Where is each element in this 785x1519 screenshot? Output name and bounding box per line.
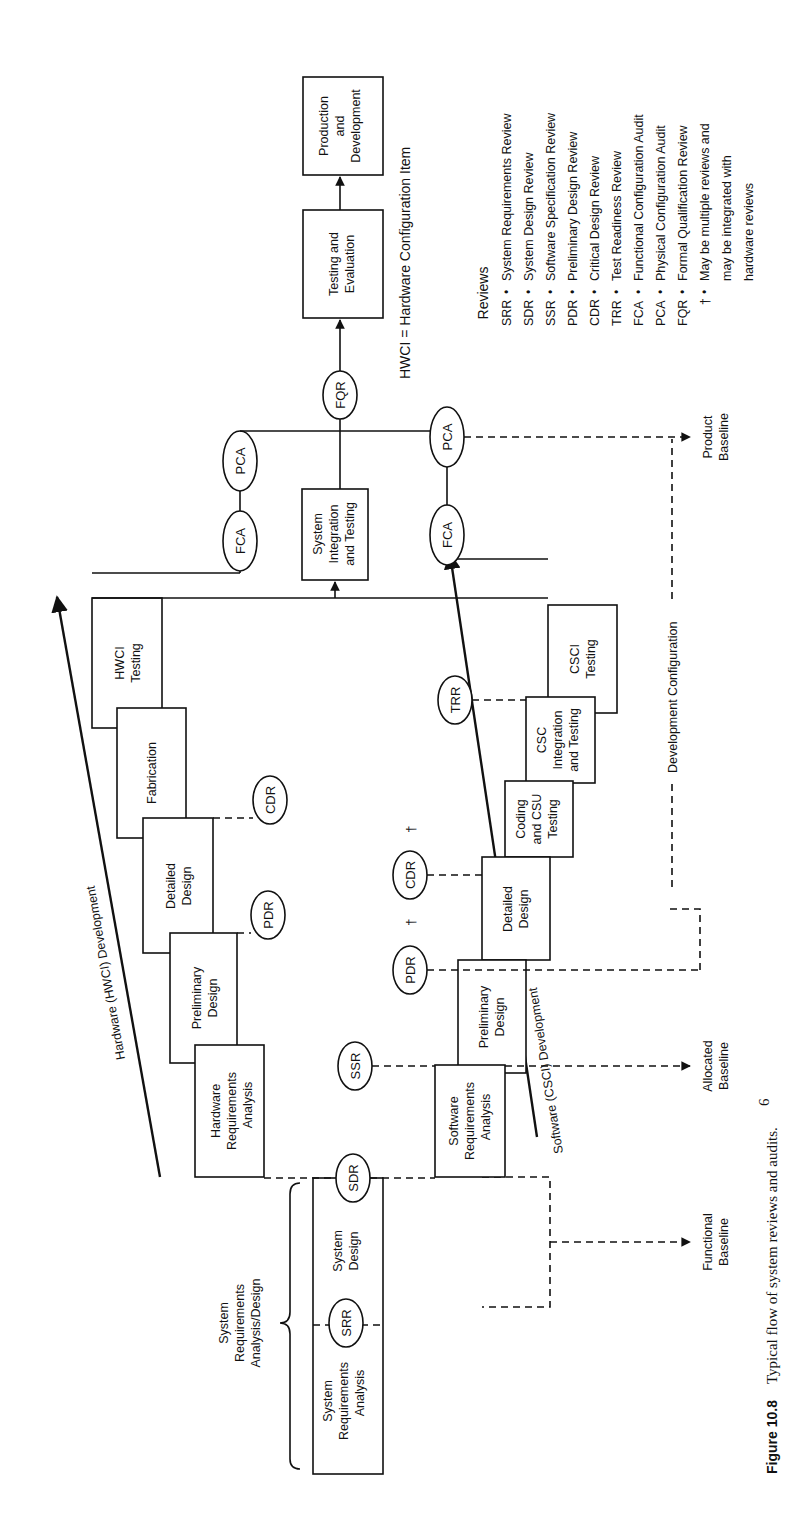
svg-text:System Design Review: System Design Review	[522, 152, 536, 281]
system-integration-box[interactable]: System Integration and Testing	[302, 489, 368, 580]
svg-text:SRR: SRR	[339, 1309, 354, 1336]
functional-baseline-bracket	[482, 1177, 550, 1307]
hw-box-preliminary-design[interactable]: Preliminary Design	[170, 933, 237, 1063]
svg-text:PDR: PDR	[566, 300, 580, 326]
svg-text:Coding: Coding	[514, 799, 528, 839]
svg-text:HWCI: HWCI	[113, 646, 127, 679]
svg-text:System: System	[321, 1380, 335, 1422]
svg-text:and Testing: and Testing	[567, 708, 581, 772]
svg-text:Testing and: Testing and	[327, 232, 341, 296]
system-group-label-1: System	[217, 1302, 231, 1344]
production-box[interactable]: Production and Development	[303, 77, 383, 175]
pca-bottom-node[interactable]: PCA	[430, 407, 464, 467]
svg-text:TRR: TRR	[448, 687, 463, 714]
svg-text:PDR: PDR	[261, 901, 276, 928]
svg-text:Preliminary: Preliminary	[190, 966, 204, 1029]
development-configuration-line	[665, 909, 700, 970]
svg-text:Requirements: Requirements	[225, 1072, 239, 1150]
svg-text:Design: Design	[517, 890, 531, 929]
svg-text:†: †	[698, 298, 712, 305]
review-flow-diagram: System Requirements Analysis/Design Syst…	[0, 0, 785, 1519]
sw-box-detailed-design[interactable]: Detailed Design	[482, 857, 550, 960]
fca-bottom-node[interactable]: FCA	[430, 505, 464, 565]
svg-text:Physical Configuration Audit: Physical Configuration Audit	[654, 125, 668, 281]
pca-top-node[interactable]: PCA	[223, 431, 257, 491]
svg-text:•: •	[522, 290, 536, 294]
svg-text:Formal Qualification Review: Formal Qualification Review	[676, 124, 690, 281]
svg-text:PCA: PCA	[233, 447, 248, 474]
svg-text:•: •	[544, 290, 558, 294]
svg-text:FCA: FCA	[632, 300, 646, 326]
svg-text:Design: Design	[180, 867, 194, 906]
hardware-development-label: Hardware (HWCI) Development	[83, 884, 128, 1061]
figure-caption-superscript: 6	[756, 1098, 772, 1106]
svg-text:Functional Configuration Audit: Functional Configuration Audit	[632, 114, 646, 281]
hw-box-requirements-analysis[interactable]: Hardware Requirements Analysis	[195, 1045, 264, 1177]
svg-text:SDR: SDR	[346, 1164, 361, 1191]
testing-evaluation-box[interactable]: Testing and Evaluation	[303, 210, 383, 318]
svg-text:Testing: Testing	[129, 643, 143, 683]
svg-text:Fabrication: Fabrication	[145, 742, 159, 804]
development-configuration-label: Development Configuration	[666, 621, 680, 773]
svg-text:•: •	[676, 290, 690, 294]
svg-text:Critical Design Review: Critical Design Review	[588, 155, 602, 281]
svg-text:PCA: PCA	[654, 300, 668, 326]
sw-box-csc-integration[interactable]: CSC Integration and Testing	[526, 697, 595, 783]
allocated-baseline-label-1: Allocated	[701, 1040, 715, 1091]
svg-text:SDR: SDR	[522, 300, 536, 326]
fqr-node[interactable]: FQR	[323, 371, 357, 419]
svg-text:SRR: SRR	[500, 300, 514, 326]
hw-pdr-node[interactable]: PDR	[251, 891, 285, 939]
svg-text:Design: Design	[347, 1232, 361, 1271]
figure-caption: Figure 10.8 Typical flow of system revie…	[756, 1098, 780, 1474]
svg-text:•: •	[610, 290, 624, 294]
system-group-label-2: Requirements	[233, 1284, 247, 1362]
svg-text:•: •	[654, 290, 668, 294]
functional-baseline-label-2: Baseline	[717, 1218, 731, 1266]
product-baseline-label-1: Product	[701, 415, 715, 459]
svg-text:hardware reviews: hardware reviews	[742, 183, 756, 281]
svg-text:CDR: CDR	[263, 786, 278, 814]
system-group-label-3: Analysis/Design	[249, 1278, 263, 1367]
product-baseline-label-2: Baseline	[717, 413, 731, 461]
sw-cdr-dagger: †	[403, 825, 418, 832]
sw-pdr-node[interactable]: PDR	[393, 946, 427, 994]
ssr-node[interactable]: SSR	[338, 1042, 372, 1090]
legend-title: Reviews	[475, 267, 491, 320]
svg-text:Preliminary Design Review: Preliminary Design Review	[566, 131, 580, 281]
svg-text:Testing: Testing	[546, 799, 560, 839]
fca-top-node[interactable]: FCA	[223, 511, 257, 571]
svg-text:May be multiple reviews and: May be multiple reviews and	[698, 123, 712, 281]
svg-text:may be integrated with: may be integrated with	[720, 155, 734, 281]
svg-text:CDR: CDR	[588, 299, 602, 326]
svg-text:PDR: PDR	[403, 956, 418, 983]
svg-text:and Testing: and Testing	[343, 502, 357, 566]
svg-text:Design: Design	[206, 979, 220, 1018]
hw-cdr-node[interactable]: CDR	[253, 776, 287, 824]
svg-text:CSC: CSC	[535, 727, 549, 753]
svg-text:Requirements: Requirements	[463, 1082, 477, 1160]
svg-text:Analysis: Analysis	[353, 1370, 367, 1417]
svg-text:and CSU: and CSU	[530, 794, 544, 845]
svg-text:PCA: PCA	[440, 423, 455, 450]
sw-cdr-node[interactable]: CDR	[393, 851, 427, 899]
svg-text:Design: Design	[493, 998, 507, 1037]
sdr-node[interactable]: SDR	[336, 1154, 370, 1202]
svg-text:Detailed: Detailed	[164, 863, 178, 909]
svg-text:•: •	[588, 290, 602, 294]
srr-node[interactable]: SRR	[329, 1299, 363, 1347]
svg-text:SSR: SSR	[348, 1053, 363, 1080]
reviews-legend: Reviews SRR•System Requirements Review S…	[475, 112, 756, 326]
allocated-baseline-label-2: Baseline	[717, 1042, 731, 1090]
svg-text:Integration: Integration	[551, 710, 565, 769]
svg-text:FQR: FQR	[676, 300, 690, 326]
svg-text:•: •	[632, 290, 646, 294]
svg-text:Evaluation: Evaluation	[343, 235, 357, 293]
sw-pdr-dagger: †	[403, 918, 418, 925]
sw-box-preliminary-design[interactable]: Preliminary Design	[458, 960, 526, 1073]
svg-text:CSCI: CSCI	[568, 644, 582, 674]
sw-box-requirements-analysis[interactable]: Software Requirements Analysis	[435, 1065, 505, 1177]
system-group-brace	[280, 1183, 300, 1469]
trr-node[interactable]: TRR	[438, 676, 472, 724]
sw-box-coding-csu[interactable]: Coding and CSU Testing	[505, 781, 573, 857]
